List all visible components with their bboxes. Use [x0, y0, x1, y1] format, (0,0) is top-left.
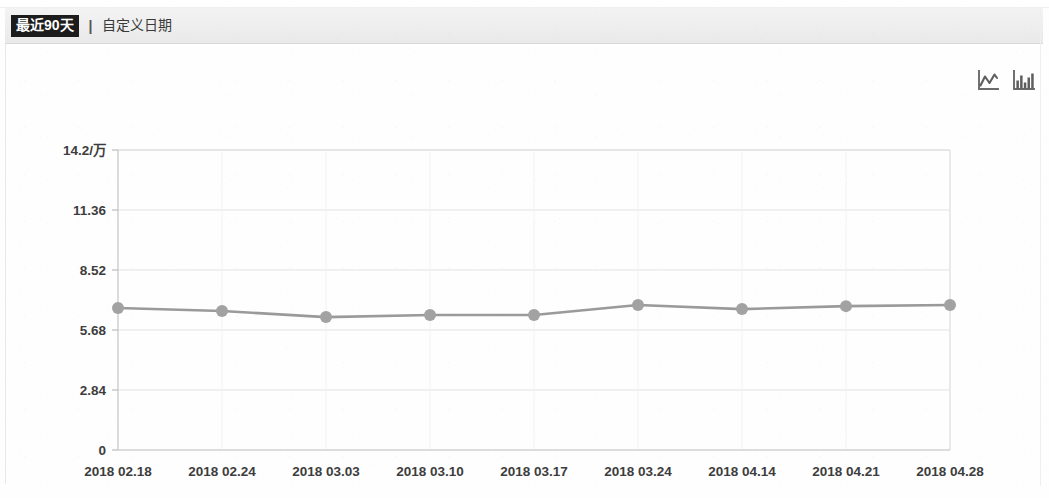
line-chart-icon[interactable] — [975, 68, 1001, 94]
y-axis-tick-label: 2.84 — [80, 383, 107, 398]
x-axis-tick-label: 2018 03.24 — [604, 464, 672, 479]
x-axis-tick-label: 2018 02.24 — [188, 464, 256, 479]
trend-chart: 02.845.688.5211.3614.2/万2018 02.182018 0… — [0, 120, 1049, 490]
tab-last-90-days[interactable]: 最近90天 — [11, 15, 79, 37]
tab-divider: | — [89, 17, 93, 35]
analytics-trend-panel: 最近90天 | 自定义日期 02.845.688.5211.3614.2/万20… — [0, 0, 1049, 498]
y-axis-tick-label: 5.68 — [80, 323, 107, 338]
x-axis-tick-label: 2018 04.28 — [916, 464, 984, 479]
x-axis-tick-label: 2018 03.17 — [500, 464, 568, 479]
series-data-point[interactable] — [632, 299, 644, 311]
series-data-point[interactable] — [216, 305, 228, 317]
x-axis-tick-label: 2018 03.10 — [396, 464, 464, 479]
series-data-point[interactable] — [112, 302, 124, 314]
page-top-edge — [0, 0, 1049, 8]
y-axis-tick-label: 0 — [98, 443, 106, 458]
x-axis-tick-label: 2018 04.14 — [708, 464, 776, 479]
y-axis-tick-label: 8.52 — [80, 263, 106, 278]
x-axis-tick-label: 2018 02.18 — [84, 464, 152, 479]
x-axis-tick-label: 2018 04.21 — [812, 464, 880, 479]
tab-custom-date[interactable]: 自定义日期 — [102, 16, 172, 35]
series-data-point[interactable] — [736, 303, 748, 315]
y-axis-tick-label: 11.36 — [73, 203, 107, 218]
chart-type-toggle-group — [975, 68, 1037, 94]
series-data-point[interactable] — [840, 300, 852, 312]
series-data-point[interactable] — [528, 309, 540, 321]
bar-chart-icon[interactable] — [1011, 68, 1037, 94]
x-axis-tick-label: 2018 03.03 — [292, 464, 360, 479]
series-data-point[interactable] — [944, 299, 956, 311]
series-data-point[interactable] — [424, 309, 436, 321]
trend-chart-canvas: 02.845.688.5211.3614.2/万2018 02.182018 0… — [0, 120, 1049, 490]
date-range-bar: 最近90天 | 自定义日期 — [5, 8, 1043, 44]
y-axis-tick-label: 14.2/万 — [63, 143, 106, 158]
series-data-point[interactable] — [320, 311, 332, 323]
